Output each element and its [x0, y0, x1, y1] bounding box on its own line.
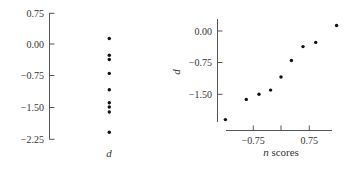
tick-label: −0.75	[21, 70, 44, 81]
tick-label: 0.75	[27, 8, 45, 19]
data-point	[245, 98, 248, 101]
data-point	[335, 24, 338, 27]
tick-label: 0.75	[301, 135, 319, 146]
data-point	[108, 105, 111, 108]
tick-label: −1.50	[189, 89, 212, 100]
data-point	[108, 131, 111, 134]
x-label-rest: scores	[269, 146, 299, 158]
tick-label: 0.00	[195, 26, 213, 37]
left-dot-plot: 0.75 0.00 −0.75 −1.50 −2.25 d	[21, 8, 112, 159]
data-point	[108, 101, 111, 104]
tick-label: −0.75	[189, 57, 212, 68]
data-point	[257, 93, 260, 96]
left-y-tick-labels: 0.75 0.00 −0.75 −1.50 −2.25	[21, 8, 44, 145]
data-point	[108, 37, 111, 40]
data-point	[314, 41, 317, 44]
right-x-ticks	[253, 126, 309, 131]
right-data-points	[224, 24, 339, 122]
data-point	[108, 88, 111, 91]
data-point	[301, 45, 304, 48]
tick-label: −2.25	[21, 134, 44, 145]
data-point	[269, 88, 272, 91]
figure: 0.75 0.00 −0.75 −1.50 −2.25 d 0.00 −0.75…	[0, 0, 355, 170]
data-point	[224, 118, 227, 121]
tick-label: −1.50	[21, 102, 44, 113]
right-y-tick-labels: 0.00 −0.75 −1.50	[189, 26, 212, 101]
left-y-ticks	[50, 13, 55, 139]
tick-label: −0.75	[242, 135, 265, 146]
tick-label: 0.00	[27, 39, 45, 50]
data-point	[290, 59, 293, 62]
data-point	[108, 110, 111, 113]
right-x-axis-label: n scores	[263, 146, 299, 158]
data-point	[108, 54, 111, 57]
right-y-axis-label: d	[170, 69, 182, 75]
left-data-points	[108, 37, 111, 134]
data-point	[108, 72, 111, 75]
right-y-ticks	[218, 31, 223, 94]
data-point	[279, 75, 282, 78]
right-probability-plot: 0.00 −0.75 −1.50 d −0.75 0.75 n scores	[170, 19, 338, 158]
data-point	[108, 58, 111, 61]
left-x-axis-label: d	[106, 147, 112, 159]
right-x-tick-labels: −0.75 0.75	[242, 135, 318, 146]
